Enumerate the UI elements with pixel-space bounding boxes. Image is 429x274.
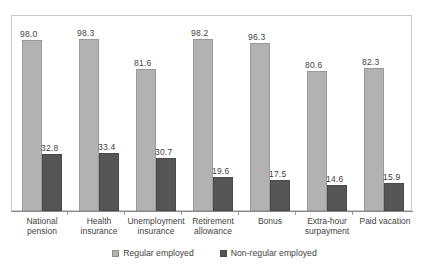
x-tick-label-health-insurance: Health insurance (69, 216, 129, 236)
x-tick-label-bonus: Bonus (240, 216, 300, 226)
bar-value-label: 81.6 (134, 59, 151, 68)
x-axis-tick (181, 212, 182, 215)
chart-legend: Regular employed Non-regular employed (0, 248, 429, 258)
bar-value-label: 15.9 (383, 173, 400, 182)
bar-nonregular (384, 183, 404, 211)
x-tick-label-national-pension: National pension (12, 216, 72, 236)
bar-value-label: 82.3 (362, 58, 379, 67)
legend-item-regular-employed: Regular employed (112, 248, 194, 258)
x-axis-tick (352, 212, 353, 215)
bar-value-label: 33.4 (98, 143, 115, 152)
x-axis-tick (295, 212, 296, 215)
x-tick-label-line-1: National (12, 216, 72, 226)
x-axis-tick (124, 212, 125, 215)
x-tick-label-line-1: Extra-hour (297, 216, 357, 226)
bar-regular (136, 69, 156, 211)
bar-value-label: 98.2 (191, 29, 208, 38)
x-tick-label-line-2: insurance (126, 226, 186, 236)
x-axis-tick (67, 212, 68, 215)
x-tick-label-line-1: Retirement (183, 216, 243, 226)
legend-item-non-regular-employed: Non-regular employed (220, 248, 317, 258)
bar-regular (22, 40, 42, 211)
x-tick-label-paid-vacation: Paid vacation (354, 216, 416, 226)
bar-chart: 98.0 32.8 98.3 33.4 81.6 30.7 98.2 19.6 … (0, 0, 429, 274)
legend-swatch-icon (112, 250, 119, 257)
x-tick-label-line-2: pension (12, 226, 72, 236)
bar-value-label: 17.5 (269, 170, 286, 179)
x-tick-label-line-1: Paid vacation (354, 216, 416, 226)
bar-value-label: 32.8 (41, 144, 58, 153)
x-axis-tick (238, 212, 239, 215)
bar-value-label: 30.7 (155, 148, 172, 157)
bar-regular (79, 39, 99, 211)
bar-nonregular (270, 180, 290, 211)
bar-value-label: 19.6 (212, 167, 229, 176)
bar-regular (193, 39, 213, 211)
bar-regular (307, 71, 327, 211)
x-tick-label-line-1: Unemployment (126, 216, 186, 226)
bar-nonregular (156, 158, 176, 211)
x-tick-label-line-2: surpayment (297, 226, 357, 236)
bar-regular (250, 43, 270, 211)
legend-label: Regular employed (123, 248, 194, 258)
bar-value-label: 80.6 (305, 61, 322, 70)
x-tick-label-line-2: insurance (69, 226, 129, 236)
bar-nonregular (327, 185, 347, 211)
legend-swatch-icon (220, 250, 227, 257)
bar-value-label: 14.6 (326, 175, 343, 184)
bar-value-label: 98.0 (20, 30, 37, 39)
x-tick-label-unemployment-insurance: Unemployment insurance (126, 216, 186, 236)
x-tick-label-extra-hour-surpayment: Extra-hour surpayment (297, 216, 357, 236)
bar-nonregular (99, 153, 119, 211)
bar-nonregular (42, 154, 62, 211)
x-tick-label-line-1: Bonus (240, 216, 300, 226)
bar-nonregular (213, 177, 233, 211)
bar-value-label: 98.3 (77, 29, 94, 38)
x-tick-label-line-1: Health (69, 216, 129, 226)
bar-regular (364, 68, 384, 211)
x-tick-label-line-2: allowance (183, 226, 243, 236)
x-tick-label-retirement-allowance: Retirement allowance (183, 216, 243, 236)
bar-value-label: 96.3 (248, 33, 265, 42)
legend-label: Non-regular employed (231, 248, 317, 258)
